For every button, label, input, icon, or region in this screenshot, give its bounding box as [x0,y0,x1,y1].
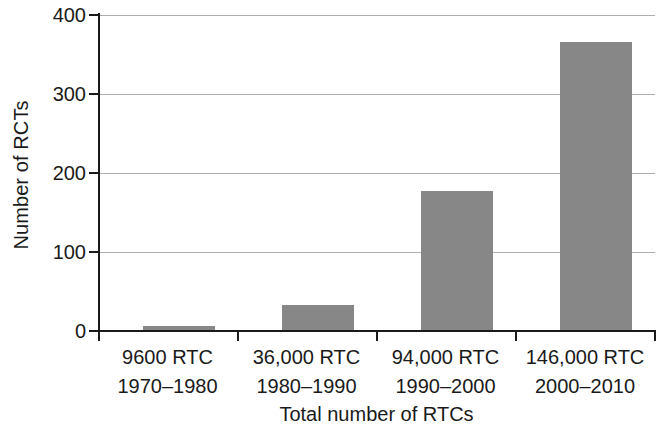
x-category-2: 36,000 RTC 1980–1990 [237,343,376,401]
x-category-4: 146,000 RTC 2000–2010 [515,343,655,401]
x-category-2-line1: 36,000 RTC [253,346,360,368]
bar-2000-2010 [560,42,632,331]
x-category-2-line2: 1980–1990 [237,372,376,401]
y-axis-tick-labels: 400 300 200 100 0 [0,0,86,437]
x-category-3-line1: 94,000 RTC [392,346,499,368]
x-tick-mark-2 [376,331,378,341]
y-tick-mark-100 [89,251,98,253]
y-tick-mark-400 [89,14,98,16]
y-tick-label-100: 100 [2,242,86,262]
x-category-1: 9600 RTC 1970–1980 [98,343,237,401]
plot-area [98,15,655,331]
y-tick-label-200: 200 [2,163,86,183]
bar-1990-2000 [421,191,493,331]
y-tick-mark-300 [89,93,98,95]
x-category-1-line2: 1970–1980 [98,372,237,401]
x-tick-mark-1 [237,331,239,341]
x-category-3-line2: 1990–2000 [376,372,515,401]
x-axis-category-labels: 9600 RTC 1970–1980 36,000 RTC 1980–1990 … [98,343,655,405]
x-category-1-line1: 9600 RTC [122,346,213,368]
x-tick-mark-3 [515,331,517,341]
x-tick-mark-4 [654,331,656,341]
y-axis-spine [98,13,100,333]
x-category-4-line1: 146,000 RTC [526,346,645,368]
y-tick-label-400: 400 [2,5,86,25]
chart-figure: Number of RCTs 400 300 200 100 0 9600 RT… [0,0,666,437]
bar-1980-1990 [282,305,354,331]
x-axis-title: Total number of RTCs [98,404,655,424]
y-tick-mark-200 [89,172,98,174]
x-category-3: 94,000 RTC 1990–2000 [376,343,515,401]
x-axis-spine [97,330,656,332]
gridline-400 [98,15,655,16]
y-tick-label-300: 300 [2,84,86,104]
x-category-4-line2: 2000–2010 [515,372,655,401]
y-tick-label-0: 0 [2,321,86,341]
